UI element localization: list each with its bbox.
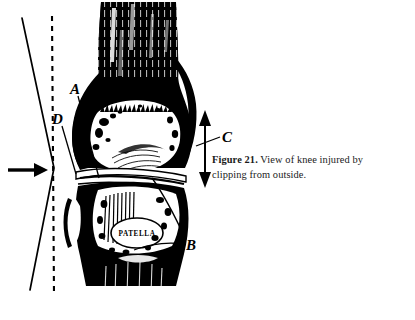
- callout-label-b: B: [186, 238, 196, 253]
- callout-label-c: C: [222, 130, 232, 145]
- patella-label: PATELLA: [118, 230, 155, 238]
- callout-label-a: A: [70, 82, 80, 97]
- figure-page: PATELLA: [0, 0, 415, 320]
- callout-label-d: D: [52, 112, 63, 127]
- figure-caption: Figure 21. View of knee injured by clipp…: [212, 152, 364, 182]
- figure-number: Figure 21.: [212, 154, 258, 165]
